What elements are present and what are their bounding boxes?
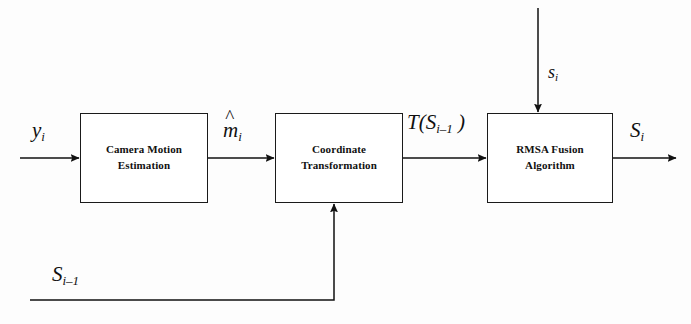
block-rmsa-fusion-algorithm-line1: RMSA Fusion (516, 142, 583, 158)
block-coordinate-transformation-line2: Transformation (301, 158, 377, 174)
label-feedback-state-sub: i–1 (63, 273, 80, 288)
label-motion-estimate-hatwrap: ^ m (223, 118, 238, 143)
label-input-signal-sub: i (41, 129, 45, 144)
block-diagram: Camera Motion Estimation Coordinate Tran… (0, 0, 691, 324)
block-coordinate-transformation-line1: Coordinate (312, 142, 366, 158)
label-motion-estimate: ^ m i (223, 118, 242, 145)
label-transformed-state-base: S (426, 110, 437, 134)
block-coordinate-transformation: Coordinate Transformation (275, 113, 403, 203)
label-fusion-top-input: si (548, 62, 558, 83)
label-feedback-state: Si–1 (52, 262, 79, 289)
label-fusion-top-input-sub: i (555, 71, 558, 83)
label-transformed-state-suffix: ) (453, 110, 465, 134)
label-transformed-state-prefix: T( (407, 110, 426, 134)
label-feedback-state-base: S (52, 262, 63, 286)
label-fusion-top-input-base: s (548, 62, 555, 82)
block-camera-motion-estimation: Camera Motion Estimation (80, 113, 208, 203)
block-rmsa-fusion-algorithm: RMSA Fusion Algorithm (487, 113, 613, 203)
block-camera-motion-estimation-line1: Camera Motion (106, 142, 182, 158)
label-transformed-state-sub: i–1 (436, 121, 453, 136)
hat-accent-icon: ^ (225, 106, 234, 128)
label-output-state-sub: i (641, 129, 645, 144)
block-camera-motion-estimation-line2: Estimation (118, 158, 170, 174)
block-rmsa-fusion-algorithm-line2: Algorithm (525, 158, 575, 174)
label-input-signal: yi (32, 118, 45, 145)
label-output-state-base: S (630, 118, 641, 142)
label-motion-estimate-sub: i (238, 129, 242, 144)
label-output-state: Si (630, 118, 644, 145)
label-input-signal-base: y (32, 118, 41, 142)
label-transformed-state: T(Si–1 ) (407, 110, 465, 137)
